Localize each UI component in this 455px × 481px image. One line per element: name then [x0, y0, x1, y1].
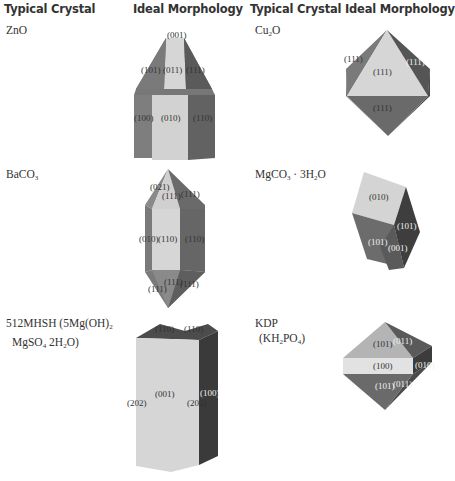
face-label: (010): [415, 360, 435, 370]
face-label: (011): [393, 379, 412, 389]
face-label: (101): [373, 339, 393, 349]
face-label: (101): [375, 381, 395, 391]
face-label: (100): [373, 361, 393, 371]
face-label: (011): [393, 336, 412, 346]
